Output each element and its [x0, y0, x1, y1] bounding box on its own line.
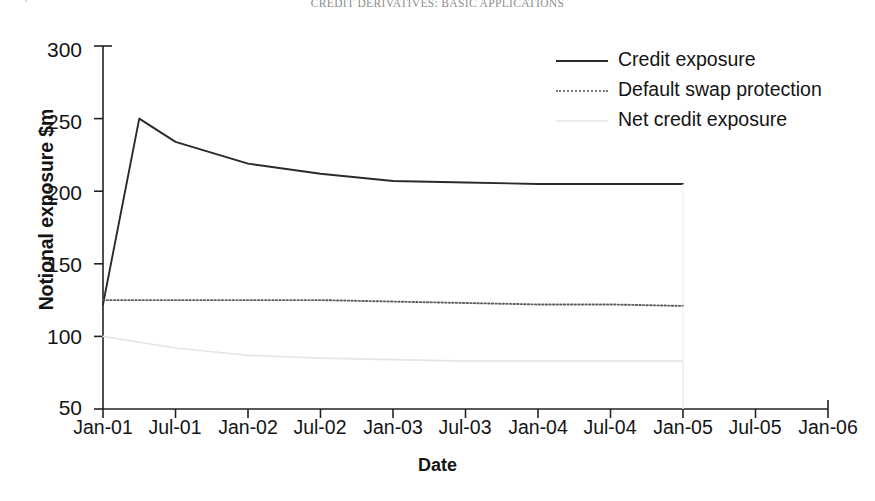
plot-area [0, 0, 875, 501]
series-line-credit-exposure [103, 119, 683, 305]
series-line-default-swap-protection [103, 300, 683, 306]
y-tick-marks [94, 46, 103, 409]
chart-figure: Notional exposure $m Date 300 250 200 15… [0, 0, 875, 501]
series-line-net-credit-exposure [103, 336, 683, 361]
axis-lines [103, 46, 828, 409]
x-tick-marks [103, 409, 828, 418]
data-series-group [103, 119, 683, 361]
